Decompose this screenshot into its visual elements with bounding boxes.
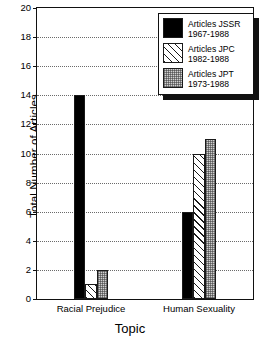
bar [193, 154, 204, 300]
y-tick-label: 16 [5, 61, 31, 71]
bar [182, 212, 193, 299]
x-axis-title: Topic [0, 321, 260, 336]
y-tick-label: 6 [5, 207, 31, 217]
legend-item: Articles JSSR1967-1988 [163, 18, 248, 40]
legend-item: Articles JPT1973-1988 [163, 68, 248, 90]
legend-series-period: 1982-1988 [188, 54, 235, 64]
legend-series-name: Articles JSSR [188, 19, 241, 29]
bar-chart: Total Number of Articles 024681012141618… [0, 0, 260, 339]
y-tick-label: 0 [5, 294, 31, 304]
y-tick-label: 14 [5, 91, 31, 101]
legend-swatch [163, 43, 183, 63]
bar [205, 139, 216, 299]
legend-item: Articles JPC1982-1988 [163, 43, 248, 65]
bar [97, 270, 108, 299]
legend-series-period: 1967-1988 [188, 29, 241, 39]
bar-group: Racial Prejudice [37, 8, 145, 299]
y-tick-label: 10 [5, 149, 31, 159]
x-category-label: Human Sexuality [163, 303, 235, 314]
legend: Articles JSSR1967-1988Articles JPC1982-1… [158, 13, 254, 95]
y-tick-label: 4 [5, 236, 31, 246]
y-tick-label: 2 [5, 265, 31, 275]
bar [85, 284, 96, 299]
y-tick-label: 18 [5, 32, 31, 42]
legend-swatch [163, 18, 183, 38]
legend-swatch [163, 68, 183, 88]
y-tick-label: 12 [5, 120, 31, 130]
legend-series-period: 1973-1988 [188, 79, 234, 89]
x-category-label: Racial Prejudice [57, 303, 126, 314]
legend-series-name: Articles JPC [188, 44, 235, 54]
y-tick-label: 20 [5, 3, 31, 13]
y-tick-mark [33, 299, 37, 300]
legend-series-name: Articles JPT [188, 69, 234, 79]
bar [74, 95, 85, 299]
y-tick-label: 8 [5, 178, 31, 188]
